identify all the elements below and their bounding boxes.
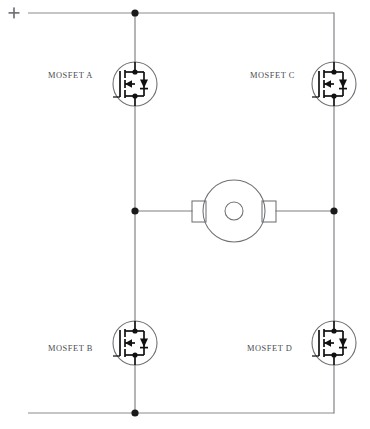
mosfet-b-symbol[interactable] <box>113 321 157 365</box>
motor-shaft <box>225 202 243 220</box>
motor-symbol[interactable] <box>192 180 276 242</box>
supply-plus-marker <box>9 7 20 18</box>
schematic-canvas: MOSFET A MOSFET C MOSFET B MOSFET D <box>0 0 370 429</box>
mosfet-d-symbol[interactable] <box>312 321 356 365</box>
junction-dots-group <box>131 9 337 416</box>
motor-body <box>203 180 265 242</box>
mosfet-a-symbol[interactable] <box>113 62 157 106</box>
mosfet-c-symbol[interactable] <box>312 62 356 106</box>
junction-dot-top-left <box>131 9 138 16</box>
junction-dot-mid-left <box>131 207 138 214</box>
junction-dot-mid-right <box>330 207 337 214</box>
mosfet-d-label: MOSFET D <box>247 344 292 353</box>
h-bridge-schematic: MOSFET A MOSFET C MOSFET B MOSFET D <box>0 0 370 429</box>
mosfet-b-label: MOSFET B <box>48 344 93 353</box>
junction-dot-bottom-left <box>131 409 138 416</box>
mosfet-a-label: MOSFET A <box>48 71 93 80</box>
mosfet-c-label: MOSFET C <box>250 71 295 80</box>
